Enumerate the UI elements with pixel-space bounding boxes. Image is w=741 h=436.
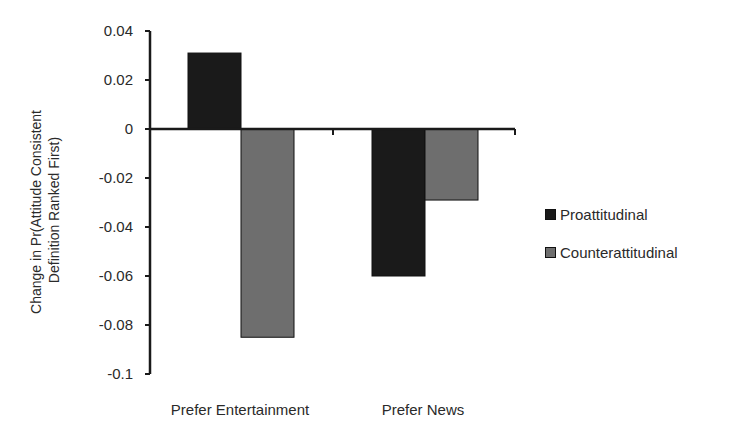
- category-labels: Prefer EntertainmentPrefer News: [171, 401, 464, 418]
- legend-swatch-counterattitudinal: [545, 247, 556, 258]
- y-axis-title-line-2: Definition Ranked First): [46, 137, 62, 283]
- y-tick-label: -0.06: [99, 267, 133, 284]
- y-tick-label: -0.08: [99, 316, 133, 333]
- y-axis-title-line-1: Change in Pr(Attitude Consistent: [28, 110, 44, 314]
- bar-counterattitudinal-0: [241, 129, 294, 337]
- legend-item-counterattitudinal: Counterattitudinal: [545, 241, 678, 263]
- legend: Proattitudinal Counterattitudinal: [545, 203, 678, 279]
- y-axis-title: Change in Pr(Attitude Consistent Definit…: [28, 106, 62, 314]
- category-label: Prefer News: [382, 401, 465, 418]
- y-tick-label: 0.02: [104, 71, 133, 88]
- bar-proattitudinal-1: [372, 129, 425, 276]
- category-label: Prefer Entertainment: [171, 401, 310, 418]
- legend-label: Proattitudinal: [560, 206, 648, 223]
- y-tick-label: -0.02: [99, 169, 133, 186]
- y-axis: 0.040.020-0.02-0.04-0.06-0.08-0.1: [99, 22, 150, 382]
- bar-proattitudinal-0: [188, 53, 241, 129]
- legend-item-proattitudinal: Proattitudinal: [545, 203, 678, 225]
- legend-swatch-proattitudinal: [545, 209, 556, 220]
- bar-counterattitudinal-1: [425, 129, 478, 200]
- y-tick-label: 0: [125, 120, 133, 137]
- y-tick-label: 0.04: [104, 22, 133, 39]
- legend-label: Counterattitudinal: [560, 244, 678, 261]
- y-tick-label: -0.04: [99, 218, 133, 235]
- bars: [188, 53, 478, 337]
- y-tick-label: -0.1: [107, 365, 133, 382]
